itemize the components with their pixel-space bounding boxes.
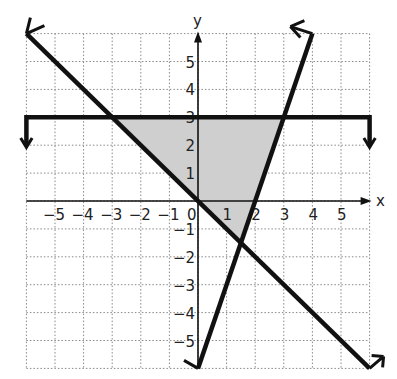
arrow-end-icon <box>26 18 44 34</box>
x-tick-label: −3 <box>100 206 122 224</box>
y-tick-label: −5 <box>173 333 195 351</box>
x-tick-label: −5 <box>43 206 65 224</box>
x-tick-label: 5 <box>337 206 347 224</box>
y-tick-label: −3 <box>173 277 195 295</box>
x-tick-label: 3 <box>280 206 290 224</box>
coordinate-plane: −5−4−3−2−1012345−5−4−3−2−112345 x y <box>0 0 397 379</box>
y-tick-label: 2 <box>185 137 195 155</box>
y-tick-label: 4 <box>185 81 195 99</box>
tick-labels: −5−4−3−2−1012345−5−4−3−2−112345 <box>43 54 347 351</box>
y-tick-label: 5 <box>185 54 195 72</box>
y-tick-label: −4 <box>173 305 195 323</box>
arrow-end-icon <box>184 360 198 368</box>
y-axis-label: y <box>193 12 202 30</box>
y-tick-label: −1 <box>173 221 195 239</box>
y-tick-label: 1 <box>185 165 195 183</box>
y-tick-label: −2 <box>173 249 195 267</box>
x-tick-label: 1 <box>223 206 233 224</box>
x-axis-label: x <box>376 192 385 210</box>
x-tick-label: −4 <box>72 206 94 224</box>
x-tick-label: −2 <box>129 206 151 224</box>
x-tick-label: 4 <box>308 206 318 224</box>
arrow-end-icon <box>370 355 384 368</box>
